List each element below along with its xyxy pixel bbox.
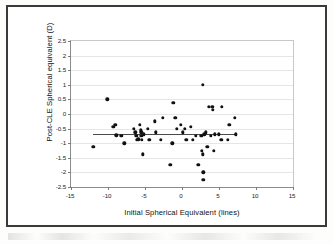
data-point [138,123,141,126]
y-tick-label: -2 [61,168,66,175]
y-tick-label: 2.5 [58,37,66,44]
data-point [185,138,188,141]
x-tick-mark [256,187,257,190]
y-tick-label: -1 [61,139,66,146]
data-point [123,141,126,144]
y-tick-label: 1.5 [58,66,66,73]
y-tick-label: 1 [63,80,66,87]
x-tick-label: -15 [66,192,75,199]
data-point [171,101,174,104]
x-tick-mark [108,187,109,190]
y-tick-mark [68,56,71,57]
x-axis-tick-labels: -15-10-5051015 [70,192,294,204]
data-point [91,145,94,148]
data-point [114,134,117,137]
plot-area [70,40,294,188]
data-point [159,138,162,141]
scanned-page: -2.5-2-1.5-1-0.500.511.522.5 -15-10-5051… [0,0,333,244]
gridline [71,172,293,173]
x-tick-label: 5 [216,192,219,199]
gridline [71,114,293,115]
data-point [220,105,223,108]
y-tick-mark [68,158,71,159]
data-point [106,98,109,101]
data-point [201,153,204,156]
x-tick-label: -5 [141,192,146,199]
data-point [142,133,145,136]
gridline [71,85,293,86]
y-tick-mark [68,172,71,173]
data-point [175,127,178,130]
x-tick-label: 0 [179,192,182,199]
data-point [120,134,123,137]
y-tick-mark [68,129,71,130]
y-tick-mark [68,99,71,100]
data-point [153,120,156,123]
gridline [71,158,293,159]
data-point [179,123,182,126]
data-point [202,178,205,181]
y-axis-title: Post-CLE Spherical equivalent (D) [43,8,57,156]
data-point [194,134,197,137]
gridline [71,99,293,100]
y-tick-mark [68,114,71,115]
scan-artifact [8,233,326,240]
y-tick-label: 2 [63,51,66,58]
data-point [211,108,214,111]
data-point [212,149,215,152]
data-point [220,138,223,141]
data-point [191,138,194,141]
data-point [233,116,236,119]
gridline [71,56,293,57]
x-tick-label: -10 [103,192,112,199]
data-point [146,127,149,130]
y-tick-label: 0.5 [58,95,66,102]
y-tick-label: 0 [63,110,66,117]
y-tick-mark [68,41,71,42]
data-point [213,133,216,136]
data-point [197,163,200,166]
data-point [234,133,237,136]
data-point [183,127,186,130]
x-tick-mark [71,187,72,190]
x-tick-mark [293,187,294,190]
data-point [171,141,174,144]
data-point [161,116,164,119]
data-point [168,163,171,166]
x-tick-mark [182,187,183,190]
data-point [226,138,229,141]
x-axis-title: Initial Spherical Equivalent (lines) [70,208,294,217]
y-tick-mark [68,85,71,86]
data-point [114,123,117,126]
y-tick-label: -0.5 [56,124,66,131]
scatter-chart: -2.5-2-1.5-1-0.500.511.522.5 -15-10-5051… [6,5,327,227]
data-point [228,123,231,126]
x-tick-label: 10 [252,192,259,199]
y-axis-title-wrapper: Post-CLE Spherical equivalent (D) [28,40,42,188]
gridline [71,143,293,144]
y-tick-label: -1.5 [56,153,66,160]
y-tick-mark [68,70,71,71]
x-tick-mark [219,187,220,190]
data-point [201,83,204,86]
data-point [148,138,151,141]
data-point [174,116,177,119]
x-tick-mark [145,187,146,190]
data-point [141,153,144,156]
y-tick-mark [68,143,71,144]
x-tick-label: 15 [289,192,296,199]
data-point [205,145,208,148]
gridline [71,70,293,71]
data-point [202,171,205,174]
y-tick-label: -2.5 [56,183,66,190]
gridline [71,129,293,130]
data-point [140,138,143,141]
data-point [217,133,220,136]
